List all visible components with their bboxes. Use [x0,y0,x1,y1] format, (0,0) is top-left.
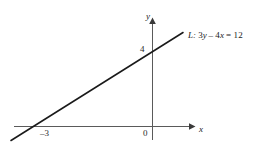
y-intercept-tick-label: 4 [140,45,145,54]
eq-rhs: = 12 [226,30,243,40]
line-name-label: L: [188,30,196,40]
y-axis-arrowhead [149,18,156,25]
coordinate-graph-figure: y x 4 –3 0 L:3y– 4x= 12 [0,0,257,143]
eq-variable-x: x [220,30,224,40]
graph-canvas [0,0,257,143]
y-axis [149,18,156,141]
line-equation-label: L:3y– 4x= 12 [188,31,243,40]
origin-label: 0 [143,129,148,138]
x-axis-label: x [199,125,203,134]
x-intercept-tick-label: –3 [40,129,49,138]
x-axis-arrowhead [189,123,196,130]
line-L [11,33,183,141]
eq-variable-y: y [203,30,207,40]
eq-coeff-2: – 4 [208,30,220,40]
y-axis-label: y [146,12,150,21]
